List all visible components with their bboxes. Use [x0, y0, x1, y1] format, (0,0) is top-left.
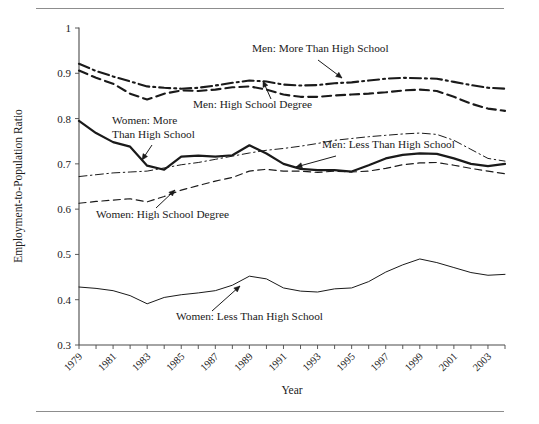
annotation-label-men-more-than-high-school: Men: More Than High School: [252, 42, 389, 54]
x-tick-label: 1987: [198, 351, 221, 374]
x-tick-label: 1991: [266, 351, 289, 374]
y-tick-label: 0.7: [57, 158, 71, 170]
annotation-label-women-high-school-degree: Women: High School Degree: [96, 208, 229, 220]
y-tick-label: 0.4: [57, 294, 71, 306]
x-tick-label: 1993: [300, 351, 323, 374]
annotation-label-women-more-than-high-school: Women: MoreThan High School: [112, 114, 195, 140]
y-tick-label: 0.6: [57, 203, 71, 215]
x-tick-label: 1985: [164, 351, 187, 374]
x-tick-label: 2003: [471, 351, 494, 374]
figure-container: 10.90.80.70.60.50.40.3 19791981198319851…: [0, 0, 539, 424]
x-tick-label: 1997: [369, 351, 392, 374]
annotation-arrowhead-men-more-than-high-school: [336, 72, 342, 78]
x-axis-title: Year: [281, 384, 302, 396]
employment-population-ratio-chart: 10.90.80.70.60.50.40.3 19791981198319851…: [0, 0, 539, 424]
x-tick-label: 1979: [62, 351, 85, 374]
annotation-label-women-less-than-high-school: Women: Less Than High School: [176, 310, 323, 322]
y-tick-label: 1: [66, 22, 72, 34]
annotations-group: Men: More Than High SchoolMen: High Scho…: [96, 42, 455, 322]
y-tick-label: 0.3: [57, 339, 71, 351]
x-tick-label: 1983: [130, 351, 153, 374]
y-tick-label: 0.5: [57, 248, 71, 260]
x-axis: 1979198119831985198719891991199319951997…: [62, 345, 505, 373]
annotation-arrowhead-men-less-than-high-school: [296, 163, 302, 168]
series-line-women-high-school-degree: Women: High School Degree: [79, 163, 505, 204]
x-tick-label: 1995: [334, 351, 357, 374]
y-axis-title: Employment-to-Population Ratio: [12, 109, 25, 263]
series-line-women-less-than-high-school: Women: Less Than High School: [79, 259, 505, 304]
series-line-men-more-than-high-school: Men: More Than High School: [79, 64, 505, 89]
x-tick-label: 1981: [96, 351, 119, 374]
annotation-label-men-high-school-degree: Men: High School Degree: [193, 98, 312, 110]
annotation-label-men-less-than-high-school: Men: Less Than High School: [322, 138, 455, 150]
y-tick-label: 0.8: [57, 113, 71, 125]
x-tick-label: 1999: [403, 351, 426, 374]
x-tick-label: 1989: [232, 351, 255, 374]
x-tick-label: 2001: [437, 351, 460, 374]
y-axis: 10.90.80.70.60.50.40.3: [57, 22, 79, 351]
annotation-arrowhead-women-more-than-high-school: [142, 154, 148, 160]
y-tick-label: 0.9: [57, 67, 71, 79]
annotation-arrow-men-less-than-high-school: [296, 156, 336, 167]
